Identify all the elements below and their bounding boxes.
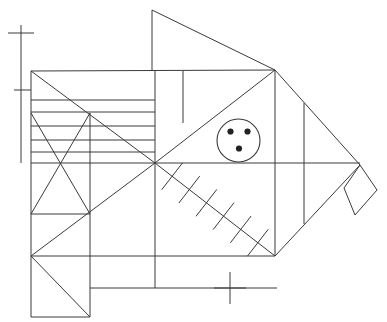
- rib-5: [230, 216, 251, 243]
- rib-2: [179, 176, 200, 203]
- eye-dot-right: [244, 128, 250, 134]
- lower-left-box: [31, 256, 277, 317]
- tail-tip-diamond: [344, 165, 377, 215]
- tail-diamond-shape: [344, 165, 377, 215]
- dorsal-fin: [152, 10, 275, 71]
- tail-lower-edge: [275, 165, 360, 256]
- eye-circle: [217, 119, 260, 162]
- body-outline: [31, 70, 360, 317]
- eye: [217, 119, 260, 162]
- body-diagonal-lower-left: [31, 163, 155, 256]
- dorsal-fin-trailing-edge: [152, 10, 275, 70]
- rib-6: [247, 229, 268, 256]
- eye-dot-bottom: [236, 145, 242, 151]
- cross-mark-bottom: [214, 272, 246, 304]
- drawing-canvas: [0, 0, 387, 322]
- body-diagonal-upper-left: [31, 71, 155, 163]
- body-top-edge: [31, 70, 275, 71]
- ruler-left: [8, 25, 34, 163]
- eye-dot-left: [227, 128, 233, 134]
- rib-4: [213, 203, 234, 230]
- spine-ribs: [155, 163, 275, 256]
- interior-vertical-lines: [90, 70, 304, 317]
- fish-line-drawing: [0, 0, 387, 322]
- tail-upper-edge: [275, 70, 360, 165]
- lower-box-diagonal: [31, 256, 90, 317]
- rib-3: [196, 189, 217, 216]
- spine-line: [155, 163, 275, 256]
- rib-1: [162, 163, 183, 190]
- body-diagonal-upper-right: [155, 70, 275, 163]
